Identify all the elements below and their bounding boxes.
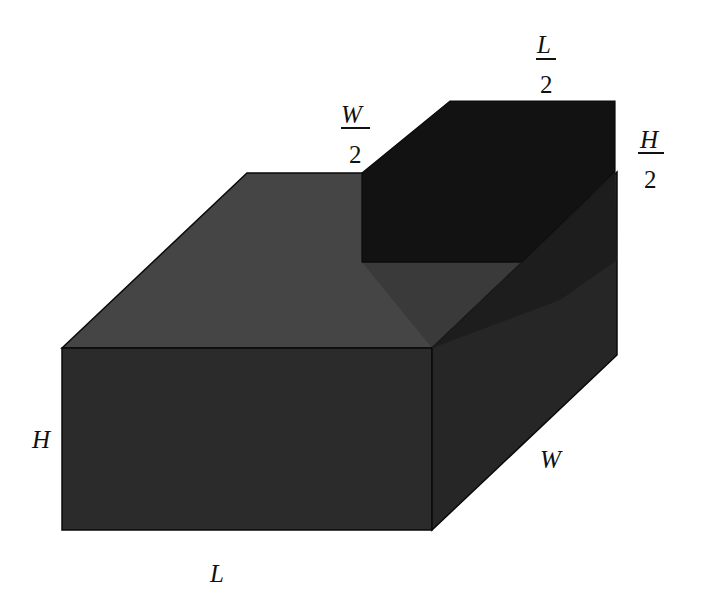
half-length-denominator: 2 <box>540 71 553 98</box>
half-width-numerator: W <box>341 101 364 128</box>
half-height-numerator: H <box>639 126 660 153</box>
label-half-height: H 2 <box>638 126 664 193</box>
label-height: H <box>31 426 52 453</box>
label-length: L <box>209 560 224 587</box>
half-width-denominator: 2 <box>349 141 362 168</box>
half-length-numerator: L <box>536 31 551 58</box>
label-width: W <box>540 446 563 473</box>
notched-box-diagram: H L W L 2 W 2 H 2 <box>0 0 703 601</box>
label-half-width: W 2 <box>341 101 370 168</box>
front-face <box>62 348 432 530</box>
label-half-length: L 2 <box>536 31 556 98</box>
half-height-denominator: 2 <box>644 166 657 193</box>
